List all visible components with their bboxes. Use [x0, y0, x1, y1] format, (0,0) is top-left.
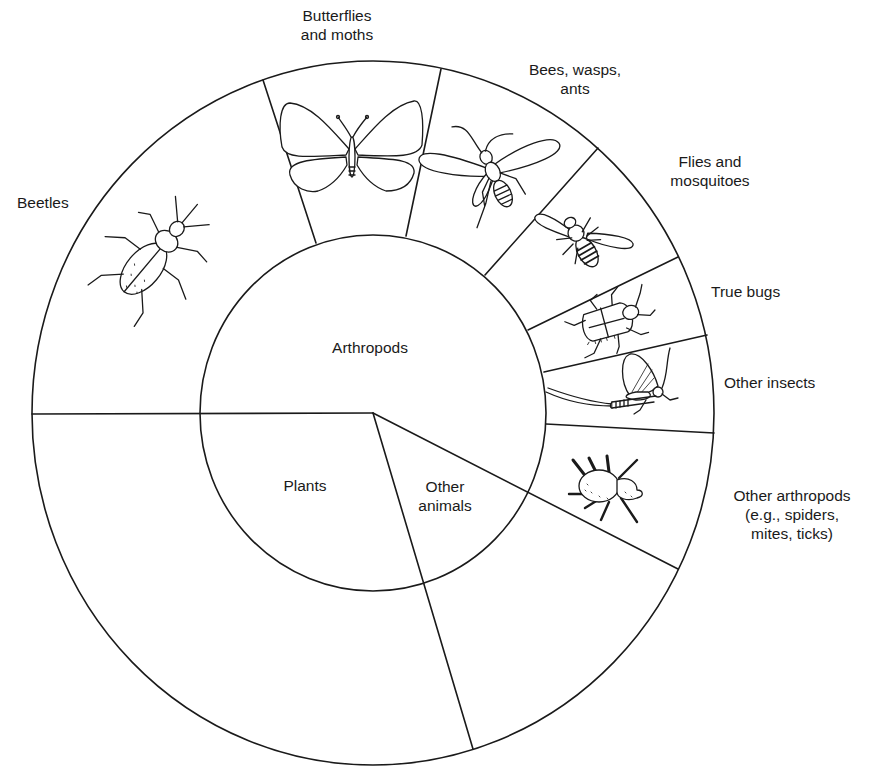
divider-plants-other-animals [373, 413, 473, 749]
divider-plants-beetles [32, 413, 373, 414]
label-arthropods: Arthropods [310, 338, 430, 357]
label-true-bugs: True bugs [711, 282, 780, 301]
true-bug-icon [560, 279, 663, 364]
label-beetles: Beetles [17, 193, 69, 212]
label-other-insects: Other insects [724, 373, 815, 392]
label-butterflies: Butterflies and moths [282, 6, 392, 44]
divider-otherinsects-otherarthropods [546, 424, 714, 433]
label-bees: Bees, wasps, ants [515, 60, 635, 98]
wasp-icon [412, 89, 577, 238]
tick-icon [569, 456, 642, 522]
label-other-animals: Other animals [400, 477, 490, 515]
fly-icon [534, 181, 635, 282]
mayfly-icon [546, 348, 678, 414]
label-flies: Flies and mosquitoes [655, 152, 765, 190]
beetle-icon [73, 172, 237, 340]
label-plants: Plants [265, 476, 345, 495]
butterfly-icon [280, 101, 423, 192]
label-other-arthropods: Other arthropods (e.g., spiders, mites, … [712, 486, 872, 543]
